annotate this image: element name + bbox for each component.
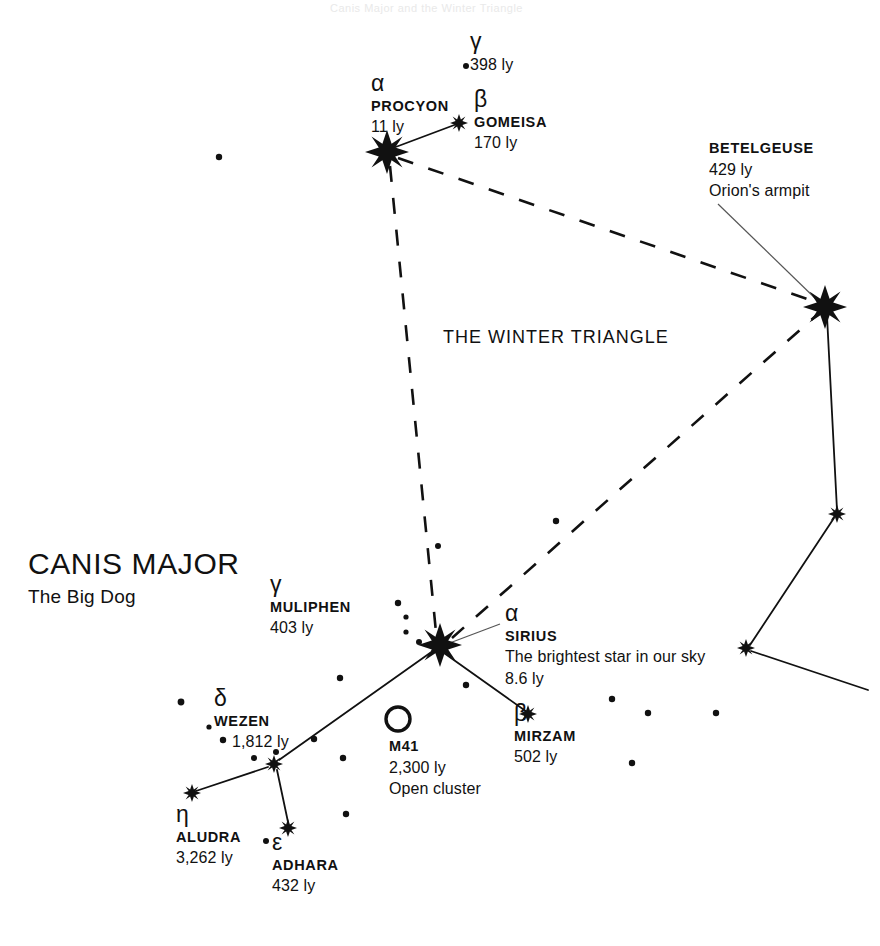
field-star-dot bbox=[337, 675, 343, 681]
star-label-mirzam: β MIRZAM 502 ly bbox=[514, 702, 576, 767]
field-star-dot bbox=[713, 710, 719, 716]
mirzam-name: MIRZAM bbox=[514, 728, 576, 745]
gomeisa-name: GOMEISA bbox=[474, 114, 547, 131]
field-star-dot bbox=[403, 629, 408, 634]
winter-triangle-dashed-lines bbox=[390, 158, 818, 638]
constellation-line-wezen-to-adhara bbox=[277, 770, 288, 822]
star-glyph-sirius bbox=[418, 623, 462, 667]
star-label-gomeisa: β GOMEISA 170 ly bbox=[474, 88, 547, 153]
aludra-distance: 3,262 ly bbox=[176, 849, 241, 868]
star-glyph-orion-belt-upper bbox=[828, 505, 846, 523]
aludra-name: ALUDRA bbox=[176, 829, 241, 846]
asterism-label-winter-triangle: THE WINTER TRIANGLE bbox=[443, 327, 669, 348]
betelgeuse-note: Orion's armpit bbox=[709, 182, 814, 201]
dashed-line-sirius-to-betelgeuse bbox=[452, 314, 818, 638]
field-star-dot bbox=[463, 682, 469, 688]
procyon-distance: 11 ly bbox=[371, 118, 449, 137]
leader-line-betelgeuse bbox=[718, 204, 820, 303]
star-label-adhara: ε ADHARA 432 ly bbox=[272, 831, 339, 896]
muliphen-distance: 403 ly bbox=[270, 619, 351, 638]
field-star-dot bbox=[645, 710, 651, 716]
field-star-dot bbox=[343, 811, 349, 817]
star-label-muliphen: γ MULIPHEN 403 ly bbox=[270, 573, 351, 638]
star-label-wezen: δ WEZEN 1,812 ly bbox=[214, 687, 289, 752]
mirzam-greek-letter: β bbox=[514, 702, 576, 725]
star-glyph-aludra bbox=[183, 784, 201, 802]
procyon-greek-letter: α bbox=[371, 72, 449, 95]
field-star-dot bbox=[206, 724, 211, 729]
procyon-name: PROCYON bbox=[371, 98, 449, 115]
dashed-line-procyon-to-sirius bbox=[390, 166, 436, 632]
gomeisa-greek-letter: β bbox=[474, 88, 547, 111]
field-star-dot bbox=[435, 543, 441, 549]
gamma-cmi-greek-letter: γ bbox=[470, 30, 513, 53]
constellation-line-wezen-to-aludra bbox=[196, 767, 268, 791]
adhara-distance: 432 ly bbox=[272, 877, 339, 896]
field-star-dot bbox=[251, 755, 257, 761]
sirius-greek-letter: α bbox=[505, 602, 705, 625]
wezen-name: WEZEN bbox=[214, 713, 289, 730]
gamma-cmi-distance: 398 ly bbox=[470, 56, 513, 75]
star-glyph-orion-knee bbox=[737, 639, 755, 657]
constellation-title: CANIS MAJOR bbox=[28, 546, 240, 581]
field-star-dot bbox=[178, 699, 185, 706]
adhara-name: ADHARA bbox=[272, 857, 339, 874]
field-star-dot bbox=[553, 518, 559, 524]
m41-distance: 2,300 ly bbox=[389, 759, 481, 778]
star-glyph-gomeisa bbox=[450, 114, 468, 132]
gomeisa-distance: 170 ly bbox=[474, 134, 547, 153]
star-label-procyon: α PROCYON 11 ly bbox=[371, 72, 449, 137]
sirius-name: SIRIUS bbox=[505, 628, 705, 645]
betelgeuse-name: BETELGEUSE bbox=[709, 140, 814, 157]
wezen-greek-letter: δ bbox=[214, 687, 289, 710]
field-star-dot bbox=[395, 600, 401, 606]
adhara-greek-letter: ε bbox=[272, 831, 339, 854]
m41-name: M41 bbox=[389, 738, 481, 755]
sirius-note: The brightest star in our sky bbox=[505, 648, 705, 667]
field-star-dot bbox=[216, 154, 222, 160]
star-label-sirius: α SIRIUS The brightest star in our sky 8… bbox=[505, 602, 705, 689]
constellation-subtitle: The Big Dog bbox=[28, 586, 136, 608]
muliphen-name: MULIPHEN bbox=[270, 599, 351, 616]
field-star-dot bbox=[629, 760, 635, 766]
sirius-distance: 8.6 ly bbox=[505, 670, 705, 689]
star-chart-canvas: Canis Major and the Winter Triangle CANI… bbox=[0, 0, 880, 946]
field-star-dot bbox=[609, 696, 615, 702]
mirzam-distance: 502 ly bbox=[514, 748, 576, 767]
constellation-line-orion-knee-to-orion-edge bbox=[751, 651, 868, 690]
constellation-line-betelgeuse-to-orion-belt-upper bbox=[827, 316, 837, 510]
field-star-dot bbox=[263, 838, 269, 844]
muliphen-greek-letter: γ bbox=[270, 573, 351, 596]
constellation-line-orion-belt-upper-to-orion-knee bbox=[750, 518, 834, 645]
star-label-betelgeuse: BETELGEUSE 429 ly Orion's armpit bbox=[709, 140, 814, 201]
label-leader-lines bbox=[447, 204, 820, 644]
field-star-dot bbox=[340, 755, 346, 761]
wezen-distance: 1,812 ly bbox=[232, 733, 289, 752]
field-star-dot bbox=[463, 63, 469, 69]
m41-note: Open cluster bbox=[389, 780, 481, 799]
deep-sky-glyph-m41 bbox=[386, 707, 410, 731]
star-label-gamma-canis-minoris: γ 398 ly bbox=[470, 30, 513, 75]
star-glyph-wezen bbox=[265, 755, 283, 773]
betelgeuse-distance: 429 ly bbox=[709, 161, 814, 180]
deep-sky-label-m41: M41 2,300 ly Open cluster bbox=[389, 738, 481, 799]
deep-sky-objects-group bbox=[386, 707, 410, 731]
field-star-dot bbox=[403, 614, 408, 619]
star-label-aludra: η ALUDRA 3,262 ly bbox=[176, 803, 241, 868]
star-glyph-betelgeuse bbox=[803, 285, 847, 329]
aludra-greek-letter: η bbox=[176, 803, 241, 826]
